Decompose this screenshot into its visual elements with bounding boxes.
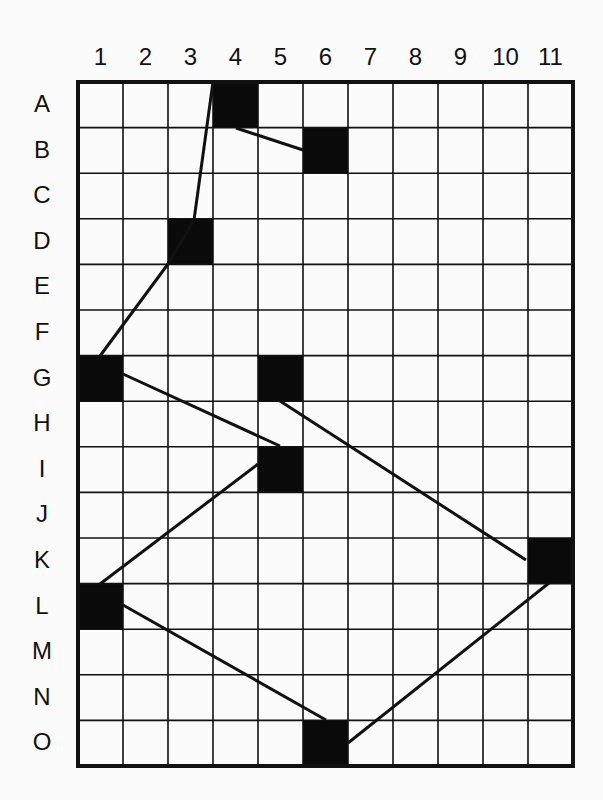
connector-line (348, 583, 549, 743)
connector-line (123, 374, 280, 446)
filled-cell (213, 82, 258, 128)
filled-cell (303, 720, 348, 766)
filled-cell (528, 538, 573, 584)
connector-line (236, 128, 303, 150)
filled-cell (78, 584, 123, 630)
connector-line (194, 82, 213, 220)
filled-cell (78, 356, 123, 402)
filled-cell (258, 356, 303, 402)
connector-line (280, 401, 526, 560)
grid-border (78, 82, 573, 766)
filled-cell (258, 447, 303, 493)
filled-cell (303, 128, 348, 174)
grid-board (0, 0, 603, 800)
connector-line (123, 605, 326, 720)
